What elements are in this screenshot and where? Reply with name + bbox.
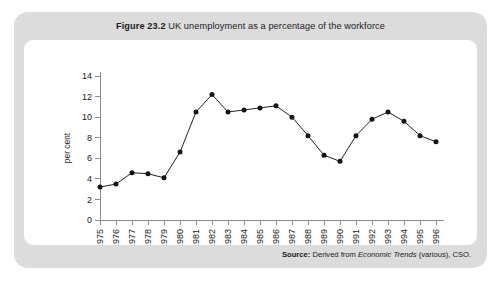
- x-tick-label-1994: 1994: [399, 229, 409, 245]
- data-point-1991: [354, 133, 359, 138]
- x-tick-label-1980: 1980: [175, 229, 185, 245]
- plot-panel: 02468101214per cent197519761977197819791…: [24, 40, 477, 245]
- x-tick-label-1985: 1985: [255, 229, 265, 245]
- figure-panel: Figure 23.2 UK unemployment as a percent…: [14, 12, 487, 268]
- data-point-1981: [194, 110, 199, 115]
- data-point-1996: [434, 139, 439, 144]
- y-tick-label-12: 12: [82, 92, 92, 102]
- data-point-1984: [242, 107, 247, 112]
- y-tick-label-8: 8: [87, 133, 92, 143]
- data-point-1975: [98, 185, 103, 190]
- data-point-1989: [322, 153, 327, 158]
- data-point-1985: [258, 105, 263, 110]
- y-tick-label-10: 10: [82, 112, 92, 122]
- data-point-1977: [130, 170, 135, 175]
- data-point-1993: [386, 110, 391, 115]
- source-publication: Economic Trends: [358, 250, 417, 259]
- x-tick-label-1978: 1978: [143, 229, 153, 245]
- x-tick-label-1995: 1995: [415, 229, 425, 245]
- data-point-1986: [274, 103, 279, 108]
- x-tick-label-1983: 1983: [223, 229, 233, 245]
- y-tick-label-0: 0: [87, 215, 92, 225]
- y-tick-label-2: 2: [87, 195, 92, 205]
- y-tick-label-4: 4: [87, 174, 92, 184]
- x-tick-label-1990: 1990: [335, 229, 345, 245]
- source-note: Source: Derived from Economic Trends (va…: [282, 250, 471, 259]
- data-point-1990: [338, 159, 343, 164]
- figure-caption: UK unemployment as a percentage of the w…: [168, 21, 385, 31]
- y-tick-label-6: 6: [87, 153, 92, 163]
- x-tick-label-1981: 1981: [191, 229, 201, 245]
- data-point-1980: [178, 150, 183, 155]
- x-tick-label-1996: 1996: [431, 229, 441, 245]
- figure-number: Figure 23.2: [116, 21, 166, 31]
- y-tick-label-14: 14: [82, 71, 92, 81]
- x-tick-label-1986: 1986: [271, 229, 281, 245]
- x-tick-label-1987: 1987: [287, 229, 297, 245]
- data-point-1979: [162, 175, 167, 180]
- data-point-1988: [306, 133, 311, 138]
- x-tick-label-1984: 1984: [239, 229, 249, 245]
- x-tick-label-1992: 1992: [367, 229, 377, 245]
- x-tick-label-1975: 1975: [95, 229, 105, 245]
- data-point-1995: [418, 133, 423, 138]
- y-axis-title: per cent: [62, 132, 72, 163]
- source-text-before: Derived from: [312, 250, 355, 259]
- line-chart: 02468101214per cent197519761977197819791…: [24, 40, 477, 245]
- data-point-1983: [226, 110, 231, 115]
- data-point-1992: [370, 117, 375, 122]
- x-tick-label-1976: 1976: [111, 229, 121, 245]
- x-tick-label-1977: 1977: [127, 229, 137, 245]
- data-point-1982: [210, 92, 215, 97]
- figure-title: Figure 23.2 UK unemployment as a percent…: [14, 21, 487, 31]
- x-tick-label-1991: 1991: [351, 229, 361, 245]
- x-tick-label-1982: 1982: [207, 229, 217, 245]
- data-point-1976: [114, 182, 119, 187]
- x-tick-label-1989: 1989: [319, 229, 329, 245]
- source-label: Source:: [282, 250, 310, 259]
- data-point-1978: [146, 171, 151, 176]
- x-tick-label-1988: 1988: [303, 229, 313, 245]
- source-text-after: (various), CSO.: [419, 250, 471, 259]
- x-tick-label-1979: 1979: [159, 229, 169, 245]
- x-tick-label-1993: 1993: [383, 229, 393, 245]
- data-point-1994: [402, 119, 407, 124]
- data-point-1987: [290, 115, 295, 120]
